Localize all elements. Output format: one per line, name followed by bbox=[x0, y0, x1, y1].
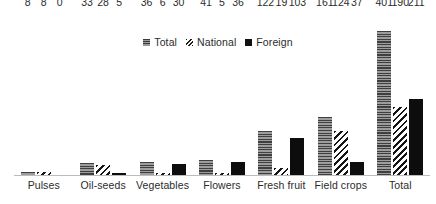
bar-slot-foreign: 0 bbox=[53, 8, 67, 175]
bar-slot-national: 8 bbox=[37, 8, 51, 175]
bar-value-label: 36 bbox=[232, 0, 244, 7]
bar-value-label: 211 bbox=[408, 0, 425, 7]
bar-slot-foreign: 5 bbox=[112, 8, 126, 175]
bar-group: 401190211 bbox=[371, 8, 430, 175]
plot-area: 8803328536630415361221910316112437401190… bbox=[14, 8, 430, 176]
bar-value-label: 0 bbox=[57, 0, 63, 7]
bar-value-label: 37 bbox=[351, 0, 363, 7]
x-axis-category-labels: PulsesOil-seedsVegetablesFlowersFresh fr… bbox=[14, 179, 430, 191]
bar-total[interactable]: 401 bbox=[377, 31, 391, 175]
bar-slot-foreign: 103 bbox=[290, 8, 304, 175]
x-axis-label: Flowers bbox=[192, 179, 251, 191]
bar-value-label: 6 bbox=[160, 0, 166, 7]
bar-slot-foreign: 36 bbox=[231, 8, 245, 175]
bar-value-label: 41 bbox=[200, 0, 212, 7]
bar-foreign[interactable]: 103 bbox=[290, 138, 304, 175]
bar-national[interactable]: 190 bbox=[393, 107, 407, 175]
x-axis-label: Field crops bbox=[311, 179, 370, 191]
bar-foreign[interactable]: 37 bbox=[350, 162, 364, 175]
bar-group: 880 bbox=[14, 8, 73, 175]
bar-national[interactable]: 19 bbox=[274, 168, 288, 175]
bar-value-label: 161 bbox=[316, 0, 334, 7]
bar-group: 16112437 bbox=[311, 8, 370, 175]
bar-value-label: 33 bbox=[81, 0, 93, 7]
bar-slot-foreign: 211 bbox=[409, 8, 423, 175]
bar-slot-national: 19 bbox=[274, 8, 288, 175]
bar-group: 41536 bbox=[192, 8, 251, 175]
x-axis-label: Vegetables bbox=[133, 179, 192, 191]
bar-slot-total: 161 bbox=[318, 8, 332, 175]
bar-group: 36630 bbox=[133, 8, 192, 175]
bar-value-label: 124 bbox=[332, 0, 350, 7]
bar-slot-total: 36 bbox=[140, 8, 154, 175]
bar-value-label: 8 bbox=[25, 0, 31, 7]
bar-national[interactable]: 28 bbox=[96, 165, 110, 175]
bar-slot-foreign: 37 bbox=[350, 8, 364, 175]
bar-slot-national: 28 bbox=[96, 8, 110, 175]
bar-slot-national: 6 bbox=[156, 8, 170, 175]
bar-slot-total: 401 bbox=[377, 8, 391, 175]
bar-value-label: 28 bbox=[97, 0, 109, 7]
bar-slot-total: 41 bbox=[199, 8, 213, 175]
bar-group: 12219103 bbox=[252, 8, 311, 175]
bar-slot-total: 33 bbox=[80, 8, 94, 175]
x-axis-label: Total bbox=[371, 179, 430, 191]
bar-value-label: 122 bbox=[257, 0, 275, 7]
bar-slot-foreign: 30 bbox=[172, 8, 186, 175]
bar-value-label: 401 bbox=[375, 0, 393, 7]
bar-value-label: 103 bbox=[289, 0, 307, 7]
bar-value-label: 5 bbox=[219, 0, 225, 7]
bar-total[interactable]: 122 bbox=[258, 131, 272, 175]
bar-groups: 8803328536630415361221910316112437401190… bbox=[14, 8, 430, 175]
bar-total[interactable]: 33 bbox=[80, 163, 94, 175]
bar-slot-total: 8 bbox=[21, 8, 35, 175]
bar-foreign[interactable]: 211 bbox=[409, 99, 423, 175]
x-axis-label: Oil-seeds bbox=[73, 179, 132, 191]
bar-value-label: 8 bbox=[41, 0, 47, 7]
bar-total[interactable]: 36 bbox=[140, 162, 154, 175]
bar-slot-national: 5 bbox=[215, 8, 229, 175]
bar-value-label: 5 bbox=[116, 0, 122, 7]
x-axis-line bbox=[14, 175, 430, 176]
bar-group: 33285 bbox=[73, 8, 132, 175]
bar-foreign[interactable]: 30 bbox=[172, 164, 186, 175]
bar-value-label: 19 bbox=[276, 0, 288, 7]
bar-value-label: 190 bbox=[391, 0, 409, 7]
bar-total[interactable]: 161 bbox=[318, 117, 332, 175]
x-axis-label: Pulses bbox=[14, 179, 73, 191]
bar-national[interactable]: 124 bbox=[334, 131, 348, 175]
bar-value-label: 30 bbox=[173, 0, 185, 7]
bar-slot-national: 190 bbox=[393, 8, 407, 175]
bar-foreign[interactable]: 36 bbox=[231, 162, 245, 175]
bar-value-label: 36 bbox=[141, 0, 153, 7]
bar-total[interactable]: 41 bbox=[199, 160, 213, 175]
x-axis-label: Fresh fruit bbox=[252, 179, 311, 191]
bar-slot-total: 122 bbox=[258, 8, 272, 175]
bar-slot-national: 124 bbox=[334, 8, 348, 175]
